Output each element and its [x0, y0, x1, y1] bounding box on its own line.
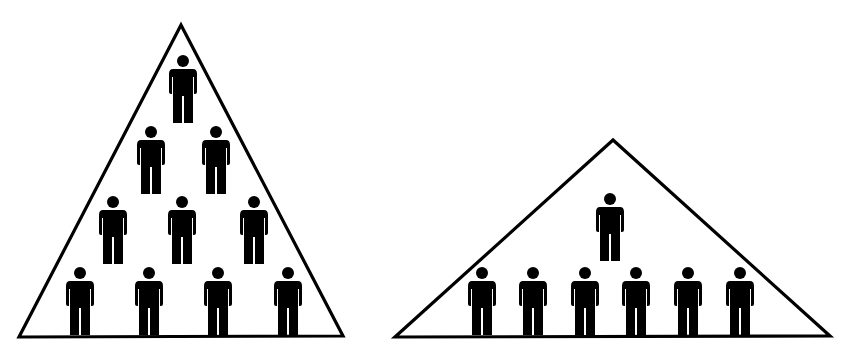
flat-pyramid: [395, 140, 830, 337]
pyramid-diagram: [0, 0, 847, 359]
tall-pyramid: [19, 25, 343, 337]
